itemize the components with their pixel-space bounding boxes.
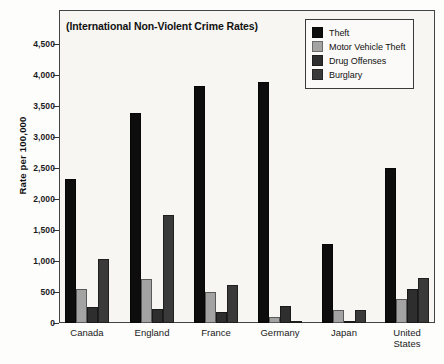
bar[interactable] xyxy=(280,306,291,323)
bar[interactable] xyxy=(322,244,333,323)
y-axis-tick-label: 3,500 xyxy=(5,101,55,111)
y-axis-tick-label: 2,000 xyxy=(5,194,55,204)
bar[interactable] xyxy=(333,310,344,323)
bar[interactable] xyxy=(385,168,396,323)
y-axis-tick-label: 500 xyxy=(5,287,55,297)
y-axis-tick-label: 1,000 xyxy=(5,256,55,266)
y-axis-tick-label: 3,000 xyxy=(5,132,55,142)
y-axis-tick-label: 1,500 xyxy=(5,225,55,235)
bar[interactable] xyxy=(205,292,216,323)
bar-group xyxy=(258,11,302,323)
y-axis-tick-label: 2,500 xyxy=(5,163,55,173)
bar[interactable] xyxy=(76,289,87,323)
bar[interactable] xyxy=(269,317,280,323)
bar[interactable] xyxy=(396,299,407,323)
legend-item[interactable]: Drug Offenses xyxy=(312,55,405,66)
bar[interactable] xyxy=(216,312,227,323)
chart-title: (International Non-Violent Crime Rates) xyxy=(66,20,258,32)
bar[interactable] xyxy=(65,179,76,323)
bar-group xyxy=(65,11,109,323)
bar[interactable] xyxy=(141,279,152,323)
bar[interactable] xyxy=(418,278,429,323)
y-axis-tick-mark xyxy=(53,323,59,324)
bar-group xyxy=(130,11,174,323)
bar[interactable] xyxy=(163,215,174,323)
x-axis-tick-label: United States xyxy=(367,327,444,349)
bar[interactable] xyxy=(98,259,109,323)
bar[interactable] xyxy=(130,113,141,323)
legend-item[interactable]: Burglary xyxy=(312,69,405,80)
chart-legend: TheftMotor Vehicle TheftDrug OffensesBur… xyxy=(305,19,414,89)
chart-figure: that the actual investigation of crimesd… xyxy=(0,0,444,364)
bar-group xyxy=(194,11,238,323)
bar[interactable] xyxy=(355,310,366,323)
bar[interactable] xyxy=(87,307,98,323)
legend-swatch-icon xyxy=(312,27,323,38)
legend-item[interactable]: Theft xyxy=(312,27,405,38)
y-axis-tick-label: 4,500 xyxy=(5,39,55,49)
legend-label: Motor Vehicle Theft xyxy=(329,42,405,52)
legend-swatch-icon xyxy=(312,41,323,52)
legend-label: Drug Offenses xyxy=(329,56,386,66)
bar[interactable] xyxy=(291,321,302,323)
legend-label: Burglary xyxy=(329,70,362,80)
legend-swatch-icon xyxy=(312,55,323,66)
bar[interactable] xyxy=(258,82,269,323)
legend-item[interactable]: Motor Vehicle Theft xyxy=(312,41,405,52)
y-axis-tick-label: 4,000 xyxy=(5,70,55,80)
bar[interactable] xyxy=(194,86,205,323)
legend-swatch-icon xyxy=(312,69,323,80)
bar[interactable] xyxy=(227,285,238,323)
legend-label: Theft xyxy=(329,28,349,38)
bar[interactable] xyxy=(152,309,163,323)
bar[interactable] xyxy=(407,289,418,323)
bar[interactable] xyxy=(344,321,355,323)
